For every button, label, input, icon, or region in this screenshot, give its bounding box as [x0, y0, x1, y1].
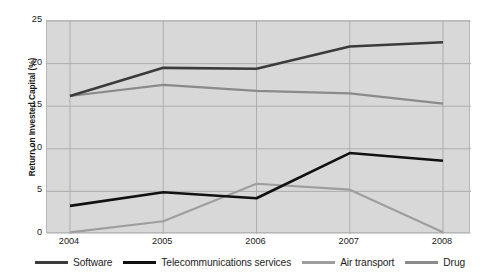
gridlines	[47, 21, 471, 234]
legend-item[interactable]: Drug	[405, 257, 465, 268]
x-tick-label: 2007	[326, 236, 372, 246]
legend-line-swatch-icon	[35, 261, 68, 264]
x-tick-label: 2004	[46, 236, 92, 246]
y-tick-label: 5	[16, 184, 42, 194]
plot-area	[46, 20, 470, 233]
y-tick-label: 25	[16, 14, 42, 24]
y-tick-label: 0	[16, 227, 42, 237]
legend-line-swatch-icon	[302, 261, 335, 264]
legend-label: Air transport	[340, 257, 394, 268]
legend-item[interactable]: Telecommunications services	[123, 257, 291, 268]
plot-svg	[47, 21, 471, 234]
y-tick-label: 20	[16, 57, 42, 67]
x-tick-label: 2008	[419, 236, 465, 246]
legend-label: Drug	[443, 257, 465, 268]
legend-line-swatch-icon	[123, 261, 156, 264]
x-tick-label: 2006	[233, 236, 279, 246]
chart-legend: SoftwareTelecommunications servicesAir t…	[0, 252, 500, 272]
legend-item[interactable]: Software	[35, 257, 112, 268]
x-tick-label: 2005	[139, 236, 185, 246]
legend-item[interactable]: Air transport	[302, 257, 394, 268]
y-tick-label: 15	[16, 99, 42, 109]
legend-line-swatch-icon	[405, 261, 438, 264]
y-tick-label: 10	[16, 142, 42, 152]
line-chart: Return on Invested Capital (%) 051015202…	[0, 0, 500, 272]
legend-label: Software	[73, 257, 112, 268]
legend-label: Telecommunications services	[161, 257, 291, 268]
